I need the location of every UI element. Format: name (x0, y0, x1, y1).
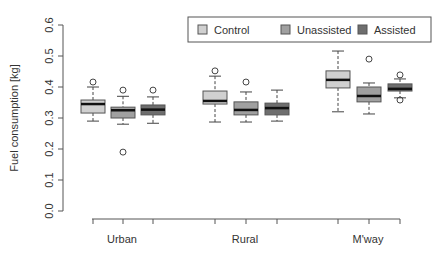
y-tick-label: 0.3 (43, 110, 55, 125)
box-unassisted-rural (234, 79, 258, 122)
outlier-point (120, 87, 126, 93)
box-assisted-mway (388, 72, 412, 103)
x-category-label: Urban (107, 233, 137, 245)
y-axis: 0.00.10.20.30.40.50.6 (43, 17, 63, 218)
y-tick-label: 0.4 (43, 79, 55, 94)
legend-swatch-unassisted (281, 25, 290, 34)
box-assisted-rural (265, 90, 289, 121)
box-unassisted-mway (357, 56, 381, 114)
plot-canvas: 0.00.10.20.30.40.50.6 UrbanRuralM'way Fu… (0, 0, 442, 263)
x-category-label: Rural (232, 233, 258, 245)
y-tick-label: 0.2 (43, 141, 55, 156)
box-control-rural (203, 68, 227, 122)
outlier-point (212, 68, 218, 74)
fuel-consumption-boxplot: 0.00.10.20.30.40.50.6 UrbanRuralM'way Fu… (0, 0, 442, 263)
legend-label-control: Control (214, 24, 249, 36)
x-category-label: M'way (353, 233, 384, 245)
x-axis: UrbanRuralM'way (92, 219, 400, 245)
legend: ControlUnassistedAssisted (188, 17, 431, 42)
outlier-point (150, 87, 156, 93)
legend-swatch-assisted (358, 25, 367, 34)
y-axis-label: Fuel consumption [kg] (8, 64, 20, 172)
outlier-point (90, 79, 96, 85)
legend-label-assisted: Assisted (374, 24, 416, 36)
box-unassisted-urban (111, 87, 135, 155)
box-assisted-urban (141, 87, 165, 123)
outlier-point (366, 56, 372, 62)
y-tick-label: 0.1 (43, 172, 55, 187)
outlier-point (397, 72, 403, 78)
y-tick-label: 0.5 (43, 48, 55, 63)
box-control-mway (326, 51, 350, 112)
y-tick-label: 0.6 (43, 17, 55, 32)
box-groups (81, 51, 412, 155)
legend-label-unassisted: Unassisted (297, 24, 351, 36)
outlier-point (243, 79, 249, 85)
box-control-urban (81, 79, 105, 121)
outlier-point (120, 149, 126, 155)
y-tick-label: 0.0 (43, 203, 55, 218)
legend-swatch-control (198, 25, 207, 34)
